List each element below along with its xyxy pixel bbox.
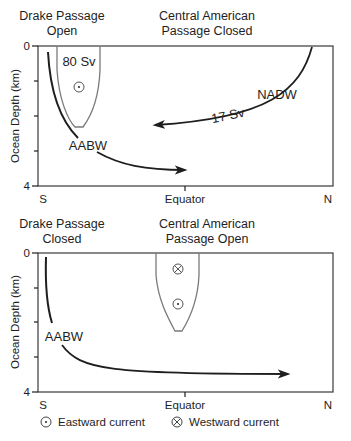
flow-17sv-label: 17 Sv [210,105,246,127]
y-ticks [32,253,185,397]
title-drake-line2: Open [47,24,78,38]
x-label-equator: Equator [165,399,205,411]
x-label-south: S [39,399,47,411]
title-drake-line1: Drake Passage [19,217,105,231]
x-label-equator: Equator [165,193,205,205]
legend-westward-label: Westward current [189,416,280,428]
title-cap-line2: Passage Open [166,232,249,246]
title-cap-line1: Central American [159,217,255,231]
y-axis-label: Ocean Depth (km) [9,275,21,369]
aabw-sinking-arrow [46,257,52,323]
ocean-circulation-diagram: Drake Passage Open Central American Pass… [0,0,351,441]
x-label-south: S [39,193,47,205]
title-drake-line1: Drake Passage [19,9,105,23]
x-label-north: N [324,399,332,411]
y-tick-4: 4 [24,386,31,398]
legend-westward-icon [172,417,182,427]
plot-frame [38,253,333,392]
aabw-northward-arrow [97,152,185,170]
panel-top: Drake Passage Open Central American Pass… [9,9,333,205]
title-cap-line2: Passage Closed [161,24,252,38]
nadw-label: NADW [257,87,297,102]
y-tick-0: 0 [24,247,30,259]
title-drake-line2: Closed [43,232,82,246]
y-tick-4: 4 [24,180,31,192]
aabw-label: AABW [69,138,108,153]
title-cap-line1: Central American [159,9,255,23]
y-axis-label: Ocean Depth (km) [9,69,21,163]
legend: Eastward current Westward current [41,416,280,428]
aabw-label: AABW [45,329,84,344]
x-label-north: N [324,193,332,205]
eastward-current-icon [74,82,84,92]
eastward-current-icon [173,299,183,309]
y-tick-0: 0 [24,40,30,52]
westward-current-icon [173,264,183,274]
aabw-northward-arrow [62,345,288,374]
panel-bottom: Drake Passage Closed Central American Pa… [9,217,333,411]
legend-eastward-label: Eastward current [58,416,146,428]
legend-eastward-icon [41,417,51,427]
cap-current-outline [156,253,199,331]
flow-80sv-label: 80 Sv [62,54,96,69]
